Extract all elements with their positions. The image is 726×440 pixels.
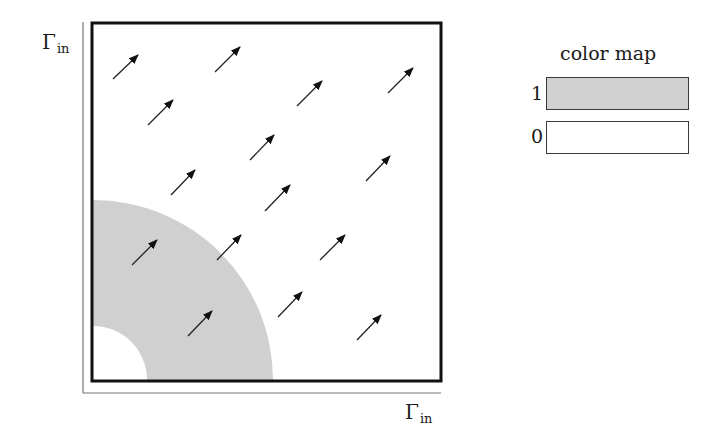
arrow-icon <box>265 185 290 211</box>
arrow-icon <box>388 68 413 93</box>
arrow-icon <box>171 170 195 195</box>
color-map-title: color map <box>560 42 656 64</box>
color-map-swatch-1 <box>546 77 689 110</box>
arrow-icon <box>113 55 138 79</box>
quarter-annulus <box>93 200 273 380</box>
arrow-icon <box>148 100 173 125</box>
arrow-icon <box>250 135 274 160</box>
quarter-annulus-region <box>93 200 273 380</box>
arrow-icon <box>297 81 322 106</box>
color-map-swatch-0 <box>546 121 689 154</box>
y-axis-label: Γin <box>42 30 69 54</box>
color-map-label-1: 1 <box>531 82 543 104</box>
arrow-icon <box>366 156 390 181</box>
y-axis-label-symbol: Γ <box>42 30 56 54</box>
flow-diagram <box>0 0 726 440</box>
arrow-icon <box>217 235 241 260</box>
arrow-icon <box>278 292 302 317</box>
arrow-icon <box>357 315 381 340</box>
arrow-icon <box>320 235 345 260</box>
x-axis-label-symbol: Γ <box>405 400 419 424</box>
y-axis-label-subscript: in <box>57 41 70 56</box>
arrow-icon <box>215 47 240 72</box>
diagram-stage: Γin Γin color map 1 0 <box>0 0 726 440</box>
x-axis-label-subscript: in <box>420 411 433 426</box>
color-map-label-0: 0 <box>531 125 543 147</box>
x-axis-label: Γin <box>405 400 432 424</box>
